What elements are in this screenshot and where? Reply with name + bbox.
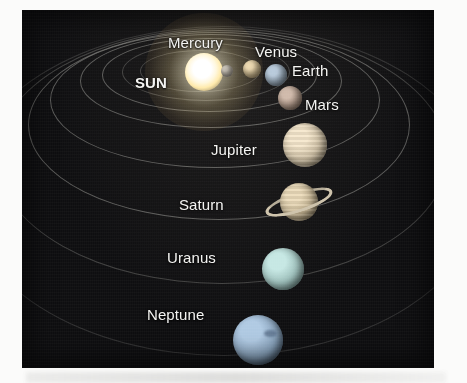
uranus-label: Uranus [167, 249, 216, 266]
scanned-page-background: SUNMercuryVenusEarthMarsJupiterSaturnUra… [0, 0, 467, 383]
mars-body [278, 86, 302, 110]
saturn-label: Saturn [179, 196, 224, 213]
mars-label: Mars [305, 96, 339, 113]
sun-body [185, 53, 223, 91]
sun-label: SUN [135, 74, 167, 91]
venus-body [243, 60, 261, 78]
neptune-dark-spot [264, 330, 278, 338]
jupiter-bands [283, 123, 327, 167]
uranus-body [262, 248, 304, 290]
neptune-body [233, 315, 283, 365]
mercury-label: Mercury [168, 34, 223, 51]
earth-body [265, 64, 287, 86]
neptune-label: Neptune [147, 306, 204, 323]
mercury-body [221, 65, 233, 77]
earth-label: Earth [292, 62, 328, 79]
solar-system-figure: SUNMercuryVenusEarthMarsJupiterSaturnUra… [22, 10, 434, 368]
page-scan-artifact [26, 372, 446, 383]
venus-label: Venus [255, 43, 297, 60]
jupiter-label: Jupiter [211, 141, 257, 158]
